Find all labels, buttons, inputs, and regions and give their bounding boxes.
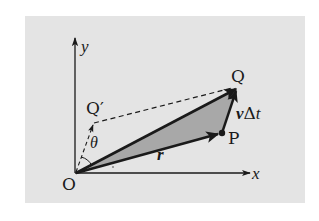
vector-v-delta-t-label: vΔt [236, 103, 262, 123]
angle-theta-label: θ [90, 134, 98, 151]
vector-r-label: r [157, 145, 164, 164]
point-p-dot [219, 130, 225, 136]
x-axis-label: x [251, 164, 260, 183]
point-p-label: P [228, 128, 239, 148]
delta-symbol: Δ [244, 103, 256, 123]
y-axis-label: y [79, 37, 89, 56]
kinematics-diagram: y x O Q P Q′ θ r vΔt [0, 0, 319, 221]
time-symbol: t [256, 104, 262, 123]
minor-mark [112, 166, 113, 167]
point-q-prime-label: Q′ [86, 98, 104, 118]
point-q-label: Q [231, 66, 245, 86]
svg-text:vΔt: vΔt [236, 103, 262, 123]
origin-label: O [62, 174, 76, 194]
